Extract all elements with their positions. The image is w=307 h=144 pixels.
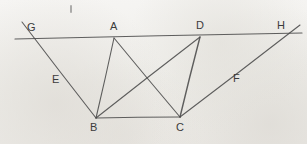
point-label-e: E [52,74,59,85]
point-label-c: C [176,122,184,133]
line-GH-transversal [15,33,302,39]
line-G-to-B [22,22,96,118]
stray-pen-tick [70,5,72,13]
point-label-d: D [196,20,204,31]
segments-group [15,22,302,118]
line-B-to-C-base [96,117,180,118]
point-label-g: G [27,22,36,33]
point-label-h: H [277,20,285,31]
point-label-b: B [90,122,97,133]
point-label-f: F [233,73,240,84]
point-label-a: A [110,21,117,32]
marks-group [70,5,72,13]
geometry-figure: GADHBCEF [0,0,307,144]
figure-drawing-canvas [0,0,307,144]
line-D-to-C [180,37,200,117]
